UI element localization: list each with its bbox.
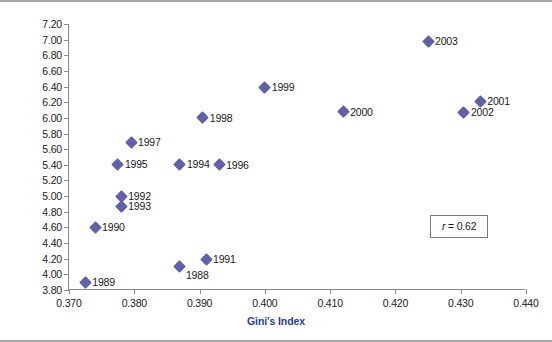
y-tick-label: 4.00 xyxy=(42,268,62,280)
data-point-label: 1998 xyxy=(210,112,233,124)
x-tick-label: 0.410 xyxy=(318,297,343,309)
data-point-marker xyxy=(258,81,271,94)
data-point-label: 1995 xyxy=(125,158,148,170)
x-tick-label: 0.370 xyxy=(56,297,81,309)
y-tick-label: 6.00 xyxy=(42,112,62,124)
data-point-marker xyxy=(174,260,187,273)
y-tick-mark xyxy=(64,227,69,228)
data-point-label: 2002 xyxy=(471,106,494,118)
data-point-label: 1993 xyxy=(128,200,151,212)
y-tick-mark xyxy=(64,212,69,213)
data-point-marker xyxy=(125,136,138,149)
y-tick-mark xyxy=(64,165,69,166)
x-tick-mark xyxy=(69,289,70,294)
data-point-marker xyxy=(458,106,471,119)
x-tick-mark xyxy=(200,289,201,294)
y-tick-mark xyxy=(64,40,69,41)
data-point-label: 1994 xyxy=(187,158,210,170)
y-tick-mark xyxy=(64,274,69,275)
x-tick-label: 0.380 xyxy=(122,297,147,309)
y-tick-label: 3.80 xyxy=(42,284,62,296)
x-tick-mark xyxy=(330,289,331,294)
data-point-label: 2000 xyxy=(350,106,373,118)
y-tick-mark xyxy=(64,118,69,119)
y-tick-label: 7.00 xyxy=(42,34,62,46)
x-tick-mark xyxy=(395,289,396,294)
data-point-marker xyxy=(112,158,125,171)
data-point-marker xyxy=(196,112,209,125)
data-point-marker xyxy=(337,105,350,118)
y-tick-mark xyxy=(64,71,69,72)
y-tick-mark xyxy=(64,149,69,150)
y-tick-label: 4.80 xyxy=(42,206,62,218)
data-point-marker xyxy=(422,35,435,48)
y-tick-label: 6.60 xyxy=(42,65,62,77)
y-tick-label: 6.80 xyxy=(42,49,62,61)
y-tick-label: 6.40 xyxy=(42,81,62,93)
data-point-label: 1991 xyxy=(213,253,236,265)
x-tick-label: 0.390 xyxy=(187,297,212,309)
y-tick-mark xyxy=(64,134,69,135)
y-tick-mark xyxy=(64,180,69,181)
y-tick-mark xyxy=(64,243,69,244)
y-tick-label: 5.40 xyxy=(42,159,62,171)
x-tick-mark xyxy=(134,289,135,294)
data-point-label: 1999 xyxy=(272,81,295,93)
x-tick-label: 0.430 xyxy=(448,297,473,309)
data-point-label: 1989 xyxy=(92,276,115,288)
data-point-marker xyxy=(89,221,102,234)
data-point-label: 1996 xyxy=(226,159,249,171)
x-axis-title: Gini's Index xyxy=(0,315,552,327)
y-tick-mark xyxy=(64,55,69,56)
y-tick-label: 4.20 xyxy=(42,253,62,265)
data-point-marker xyxy=(213,158,226,171)
y-tick-label: 5.00 xyxy=(42,190,62,202)
data-point-label: 1988 xyxy=(186,269,209,281)
y-tick-label: 5.60 xyxy=(42,143,62,155)
y-tick-label: 6.20 xyxy=(42,96,62,108)
y-tick-mark xyxy=(64,24,69,25)
y-tick-label: 4.40 xyxy=(42,237,62,249)
correlation-annotation: r = 0.62 xyxy=(430,215,488,238)
x-tick-mark xyxy=(461,289,462,294)
data-point-label: 1997 xyxy=(138,136,161,148)
y-tick-label: 4.60 xyxy=(42,221,62,233)
x-tick-label: 0.420 xyxy=(383,297,408,309)
data-point-marker xyxy=(115,200,128,213)
x-tick-label: 0.400 xyxy=(252,297,277,309)
y-tick-mark xyxy=(64,102,69,103)
y-tick-label: 7.20 xyxy=(42,18,62,30)
y-tick-mark xyxy=(64,259,69,260)
x-tick-label: 0.440 xyxy=(513,297,538,309)
y-tick-mark xyxy=(64,196,69,197)
data-point-label: 1990 xyxy=(102,221,125,233)
data-point-marker xyxy=(79,276,92,289)
data-point-label: 2003 xyxy=(435,35,458,47)
y-tick-label: 5.20 xyxy=(42,174,62,186)
correlation-value: = 0.62 xyxy=(445,220,476,232)
x-tick-mark xyxy=(265,289,266,294)
data-point-marker xyxy=(174,158,187,171)
scatter-plot-figure: Homicides per 100,000 Inhabitants Rate 3… xyxy=(0,0,552,342)
plot-area: 3.804.004.204.404.604.805.005.205.405.60… xyxy=(68,24,525,290)
y-tick-label: 5.80 xyxy=(42,128,62,140)
data-point-marker xyxy=(200,253,213,266)
x-tick-mark xyxy=(526,289,527,294)
y-tick-mark xyxy=(64,87,69,88)
